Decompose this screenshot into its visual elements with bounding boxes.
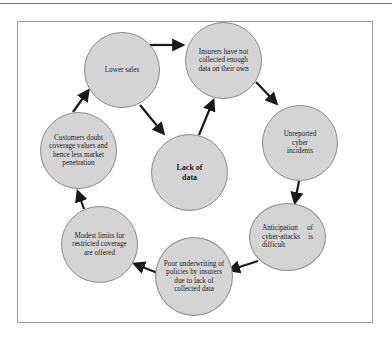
arrow-lower-sales-to-lack-of-data (140, 105, 163, 133)
node-lower-sales: Lower sales (84, 32, 160, 108)
node-label: Anticipation of cyber-attacks is difficu… (250, 224, 325, 249)
arrow-anticipation-to-poor-underwriting (230, 261, 258, 270)
node-unreported: Unreported cyber incidents (262, 105, 338, 181)
node-lack-of-data: Lack of data (151, 134, 228, 211)
node-anticipation: Anticipation of cyber-attacks is difficu… (249, 203, 326, 271)
arrow-customers-doubt-to-lower-sales (73, 91, 88, 112)
arrow-lack-of-data-to-insurers (199, 101, 213, 135)
arrow-unreported-to-anticipation (295, 181, 299, 202)
node-label: Unreported cyber incidents (263, 130, 337, 155)
arrow-insurers-to-unreported (256, 82, 276, 103)
node-label: Lack of data (152, 163, 227, 182)
node-customers-doubt: Customers doubt coverage values and henc… (40, 112, 117, 189)
node-label: Poor underwriting of policies by insurer… (156, 260, 232, 294)
arrow-modest-limits-to-customers-doubt (78, 192, 84, 209)
node-poor-underwriting: Poor underwriting of policies by insurer… (155, 237, 233, 316)
node-label: Lower sales (100, 66, 145, 74)
node-modest-limits: Modest limits for restricted coverage ar… (61, 206, 138, 283)
node-label: Modest limits for restricted coverage ar… (62, 232, 137, 257)
node-insurers: Insurers have not collected enough data … (185, 22, 262, 99)
node-label: Insurers have not collected enough data … (186, 48, 261, 73)
node-label: Customers doubt coverage values and henc… (41, 134, 116, 168)
